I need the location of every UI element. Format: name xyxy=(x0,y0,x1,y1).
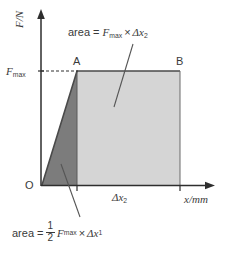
y-tick-label-fmax: Fmax xyxy=(6,66,26,79)
fmax-symbol: F xyxy=(6,65,13,77)
point-b-label: B xyxy=(176,56,183,67)
x-axis-label: x/mm xyxy=(184,194,208,205)
y-axis-arrowhead xyxy=(37,9,45,19)
fraction-denominator: 2 xyxy=(46,232,56,243)
annotation-top-f-subscript: max xyxy=(109,32,122,39)
annotation-top-delta-subscript: 2 xyxy=(144,32,148,39)
annotation-bottom-delta: Δx xyxy=(87,228,98,239)
annotation-bottom-times: × xyxy=(77,228,87,239)
fraction-numerator: 1 xyxy=(46,221,56,231)
delta-x2-symbol: Δx xyxy=(112,191,123,203)
y-axis-label-text: F/N xyxy=(13,11,25,28)
annotation-top-prefix: area = xyxy=(68,26,103,38)
force-extension-graph-figure: F/N Fmax O A B Δx2 x/mm area = Fmax×Δx2 … xyxy=(0,0,228,253)
x-axis-arrowhead xyxy=(205,182,215,190)
rectangle-area-region xyxy=(77,71,180,185)
y-axis-label: F/N xyxy=(14,11,25,28)
origin-label: O xyxy=(25,180,34,191)
annotation-bottom-f-subscript: max xyxy=(64,230,77,237)
fmax-subscript: max xyxy=(13,71,26,78)
annotation-rectangle-area: area = Fmax×Δx2 xyxy=(68,27,148,40)
annotation-bottom-f-symbol: F xyxy=(57,228,64,239)
annotation-bottom-prefix: area = xyxy=(12,228,44,239)
delta-x2-subscript: 2 xyxy=(123,197,127,204)
annotation-bottom-delta-subscript: 1 xyxy=(98,230,102,237)
annotation-top-times: × xyxy=(122,26,132,38)
one-half-fraction: 12 xyxy=(46,221,56,243)
annotation-triangle-area: area = 12Fmax×Δx1 xyxy=(12,222,102,244)
x-axis-label-text: x/mm xyxy=(184,193,208,205)
delta-x2-span-label: Δx2 xyxy=(112,192,127,205)
annotation-top-delta: Δx xyxy=(133,26,144,38)
point-a-label: A xyxy=(73,56,80,67)
